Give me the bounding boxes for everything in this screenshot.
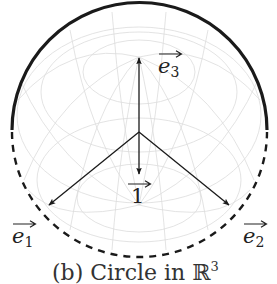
label-e1: e1 [12,226,33,249]
label-one: 1 [131,186,144,207]
figure-caption: (b) Circle in ℝ3 [52,259,219,284]
arrow-e2 [139,132,229,205]
arrow-e1 [49,132,139,205]
vector-arrow-icon [128,180,152,188]
vector-arrow-icon [244,220,268,228]
label-e3: e3 [158,56,179,79]
caption-exponent: 3 [211,259,219,274]
label-e3-index: 3 [170,64,179,80]
vector-arrow-icon [13,220,37,228]
caption-prefix: (b) Circle in [52,260,192,284]
caption-space-symbol: ℝ [192,260,210,284]
label-e1-index: 1 [24,234,33,250]
vector-arrow-icon [159,50,183,58]
sphere-diagram [0,0,277,284]
label-e2: e2 [243,226,264,249]
label-e2-index: 2 [255,234,264,250]
